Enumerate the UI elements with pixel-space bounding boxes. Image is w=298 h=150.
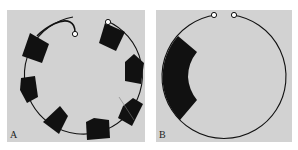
panel-label-a: A [10, 129, 17, 140]
panel-b: B [156, 10, 292, 142]
panel-label-b: B [159, 129, 166, 140]
ring-diagram-a [7, 10, 145, 142]
ring-diagram-b [156, 10, 292, 142]
panel-a: A [7, 10, 145, 142]
